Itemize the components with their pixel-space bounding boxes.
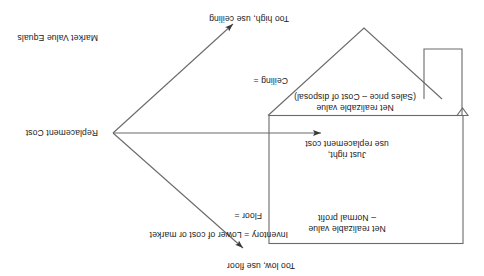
bound-floor-label: Floor = [212, 210, 262, 221]
node-replacement-cost: Replacement Cost [2, 127, 98, 138]
outcome-too-low: Too low, use floor [186, 260, 336, 271]
bound-ceiling-value: Net realizable value (Sales price – Cost… [266, 91, 444, 113]
arrow-too-high [113, 24, 233, 133]
bound-floor-value: Net realizable value – Normal profit [272, 212, 422, 234]
diagram-title: Inventory = Lower of cost or market [58, 229, 288, 240]
outcome-too-high: Too high, use ceiling [164, 13, 334, 24]
diagram-canvas: Inventory = Lower of cost or market Repl… [0, 0, 484, 276]
bound-ceiling-label: Ceiling = [232, 75, 288, 86]
outcome-just-right: Just right, use replacement cost [272, 138, 422, 160]
node-market-value-equals: Market Value Equals [2, 32, 98, 43]
